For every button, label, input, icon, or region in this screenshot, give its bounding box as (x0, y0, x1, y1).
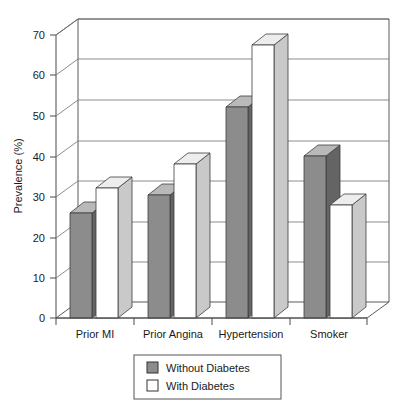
bar-front (252, 45, 274, 318)
bar-front (148, 195, 170, 318)
y-tick-label: 60 (33, 69, 45, 81)
bar-prior-angina-with-diabetes[interactable] (174, 153, 210, 318)
bar-side (196, 153, 210, 318)
bar-prior-mi-with-diabetes[interactable] (96, 177, 132, 318)
y-tick-label: 20 (33, 232, 45, 244)
bar-side (274, 34, 288, 318)
bar-front (304, 156, 326, 318)
prevalence-bar-chart: 70 60 50 40 (0, 0, 411, 417)
y-tick-label: 40 (33, 151, 45, 163)
chart-container: 70 60 50 40 (0, 0, 411, 417)
bar-side (352, 194, 366, 318)
bar-front (70, 213, 92, 318)
y-tick-label: 10 (33, 272, 45, 284)
y-axis-label: Prevalence (%) (12, 138, 24, 213)
x-axis: Prior MI Prior Angina Hypertension Smoke… (56, 318, 367, 340)
legend-label: With Diabetes (166, 380, 235, 392)
x-category-label-hypertension: Hypertension (219, 328, 284, 340)
legend-label: Without Diabetes (166, 362, 250, 374)
bar-smoker-with-diabetes[interactable] (330, 194, 366, 318)
x-category-label-prior-angina: Prior Angina (143, 328, 204, 340)
y-tick-label: 50 (33, 110, 45, 122)
bar-front (96, 188, 118, 318)
y-tick-0: 0 (39, 312, 56, 324)
y-tick-label: 70 (33, 29, 45, 41)
x-category-label-smoker: Smoker (310, 328, 348, 340)
y-tick-label: 30 (33, 191, 45, 203)
chart-legend: Without Diabetes With Diabetes (134, 355, 281, 399)
y-tick-label: 0 (39, 312, 45, 324)
white-swatch-icon (147, 380, 158, 391)
bar-front (226, 107, 248, 318)
bar-hypertension-with-diabetes[interactable] (252, 34, 288, 318)
bar-side (118, 177, 132, 318)
bar-front (174, 164, 196, 318)
x-category-label-prior-mi: Prior MI (76, 328, 115, 340)
bar-front (330, 205, 352, 318)
gray-swatch-icon (147, 362, 158, 373)
